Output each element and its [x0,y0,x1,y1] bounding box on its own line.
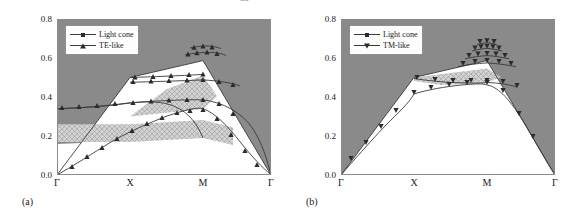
x-tick-b-3: Γ [544,177,566,188]
legend-item-tm-like-b: TM-like [354,40,417,51]
legend-a: Light cone TE-like [65,25,139,55]
x-tick-a-3: Γ [260,177,282,188]
legend-label-light-cone-a: Light cone [99,29,133,40]
light-cone-marker-icon [70,30,96,39]
legend-item-te-like-a: TE-like [70,40,133,51]
light-cone-marker-icon [354,30,380,39]
legend-b: Light cone TM-like [349,25,423,55]
figure-photonic-band-structures: Normalized frequency (a/λ) 0.0 0.2 0.4 0… [0,0,568,219]
x-tick-b-1: X [403,177,425,188]
legend-item-light-cone-a: Light cone [70,29,133,40]
legend-label-tm-like-b: TM-like [383,40,410,51]
y-tick-b-2: 0.4 [312,92,336,102]
x-tick-a-1: X [119,177,141,188]
panel-b: Normalized frequency (a/λ) 0.0 0.2 0.4 0… [284,0,568,219]
y-tick-b-1: 0.2 [312,131,336,141]
legend-label-te-like-a: TE-like [99,40,123,51]
panel-a: Normalized frequency (a/λ) 0.0 0.2 0.4 0… [0,0,284,219]
panel-label-a: (a) [22,196,33,207]
y-tick-b-4: 0.8 [312,14,336,24]
y-tick-b-3: 0.6 [312,53,336,63]
panel-label-b: (b) [306,196,318,207]
y-tick-a-3: 0.6 [28,53,52,63]
y-axis-label-b: Normalized frequency (a/λ) [240,0,250,22]
x-tick-a-0: Γ [46,177,68,188]
y-tick-a-2: 0.4 [28,92,52,102]
tm-like-marker-icon [354,41,380,50]
tm-band-6-markers-b [477,38,496,44]
legend-label-light-cone-b: Light cone [383,29,417,40]
y-tick-a-1: 0.2 [28,131,52,141]
te-like-marker-icon [70,41,96,50]
plot-area-a: Light cone TE-like [57,19,271,175]
legend-item-light-cone-b: Light cone [354,29,417,40]
plot-area-b: Light cone TM-like [341,19,555,175]
x-tick-b-2: M [476,177,498,188]
y-tick-a-4: 0.8 [28,14,52,24]
x-tick-b-0: Γ [330,177,352,188]
x-tick-a-2: M [192,177,214,188]
